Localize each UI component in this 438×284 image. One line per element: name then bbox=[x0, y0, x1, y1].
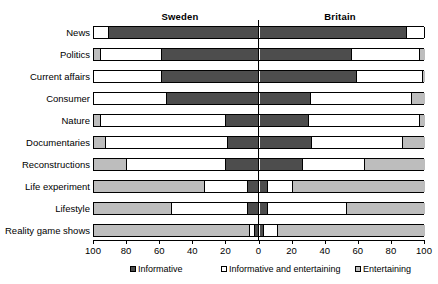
segment-britain-informative bbox=[260, 115, 310, 126]
segment-sweden-entertaining bbox=[94, 49, 101, 60]
panel-heading-britain: Britain bbox=[300, 11, 380, 22]
axis-tick bbox=[424, 240, 425, 244]
segment-britain-entertaining bbox=[347, 203, 425, 214]
segment-britain-entertaining bbox=[365, 159, 425, 170]
axis-tick-label: 100 bbox=[409, 245, 438, 256]
category-label: Documentaries bbox=[2, 136, 90, 149]
legend-label-informative-and-entertaining: Informative and entertaining bbox=[229, 264, 341, 274]
segment-britain-mixed bbox=[303, 159, 366, 170]
axis-tick-label: 60 bbox=[144, 245, 174, 256]
segment-sweden-entertaining bbox=[94, 203, 172, 214]
category-label: Lifestyle bbox=[2, 202, 90, 215]
segment-britain-mixed bbox=[357, 71, 423, 82]
segment-sweden-informative bbox=[226, 159, 259, 170]
legend-item-informative-and-entertaining: Informative and entertaining bbox=[221, 264, 341, 274]
segment-sweden-mixed bbox=[106, 137, 228, 148]
axis-tick bbox=[225, 240, 226, 244]
category-label: Current affairs bbox=[2, 70, 90, 83]
axis-tick bbox=[192, 240, 193, 244]
axis-tick-label: 40 bbox=[177, 245, 207, 256]
segment-britain-informative bbox=[260, 181, 268, 192]
legend-swatch-entertaining-icon bbox=[355, 266, 361, 272]
segment-britain-mixed bbox=[309, 115, 420, 126]
axis-tick-label: 0 bbox=[244, 245, 274, 256]
segment-britain-entertaining bbox=[420, 115, 425, 126]
axis-tick bbox=[93, 240, 94, 244]
segment-britain-entertaining bbox=[423, 71, 425, 82]
diverging-stacked-bar-chart: Sweden Britain NewsPoliticsCurrent affai… bbox=[0, 0, 438, 284]
segment-britain-informative bbox=[260, 203, 268, 214]
segment-britain-informative bbox=[260, 71, 358, 82]
axis-tick-label: 60 bbox=[343, 245, 373, 256]
segment-sweden-entertaining bbox=[94, 225, 250, 236]
legend-swatch-informative-icon bbox=[130, 266, 136, 272]
segment-sweden-mixed bbox=[94, 27, 109, 38]
axis-tick bbox=[292, 240, 293, 244]
axis-tick-label: 100 bbox=[78, 245, 108, 256]
category-label: Life experiment bbox=[2, 180, 90, 193]
segment-sweden-entertaining bbox=[94, 181, 205, 192]
segment-sweden-entertaining bbox=[94, 115, 101, 126]
legend-swatch-mixed-icon bbox=[221, 266, 227, 272]
category-label: News bbox=[2, 26, 90, 39]
segment-sweden-mixed bbox=[94, 93, 167, 104]
segment-sweden-mixed bbox=[101, 115, 227, 126]
category-axis-labels: NewsPoliticsCurrent affairsConsumerNatur… bbox=[0, 26, 90, 238]
axis-tick bbox=[358, 240, 359, 244]
axis-tick bbox=[325, 240, 326, 244]
legend-label-informative: Informative bbox=[138, 264, 183, 274]
segment-sweden-mixed bbox=[172, 203, 248, 214]
segment-britain-mixed bbox=[264, 225, 277, 236]
category-label: Consumer bbox=[2, 92, 90, 105]
segment-britain-informative bbox=[260, 93, 311, 104]
segment-sweden-informative bbox=[228, 137, 259, 148]
segment-britain-entertaining bbox=[293, 181, 425, 192]
legend-label-entertaining: Entertaining bbox=[363, 264, 411, 274]
axis-tick-label: 20 bbox=[210, 245, 240, 256]
segment-britain-mixed bbox=[311, 93, 412, 104]
axis-tick bbox=[259, 240, 260, 244]
segment-britain-informative bbox=[260, 159, 303, 170]
segment-sweden-entertaining bbox=[94, 137, 106, 148]
legend-item-informative: Informative bbox=[130, 264, 183, 274]
panel-heading-sweden: Sweden bbox=[140, 11, 220, 22]
axis-tick bbox=[126, 240, 127, 244]
segment-sweden-mixed bbox=[250, 225, 255, 236]
segment-sweden-mixed bbox=[94, 71, 162, 82]
axis-tick-label: 80 bbox=[111, 245, 141, 256]
segment-britain-entertaining bbox=[403, 137, 425, 148]
legend-item-entertaining: Entertaining bbox=[355, 264, 411, 274]
segment-britain-mixed bbox=[407, 27, 425, 38]
segment-sweden-informative bbox=[162, 49, 260, 60]
axis-tick-label: 20 bbox=[277, 245, 307, 256]
category-label: Reality game shows bbox=[2, 224, 90, 237]
axis-tick-label: 80 bbox=[376, 245, 406, 256]
segment-sweden-informative bbox=[167, 93, 260, 104]
axis-tick bbox=[391, 240, 392, 244]
segment-britain-entertaining bbox=[412, 93, 425, 104]
category-label: Reconstructions bbox=[2, 158, 90, 171]
segment-britain-mixed bbox=[268, 203, 347, 214]
category-label: Politics bbox=[2, 48, 90, 61]
segment-sweden-mixed bbox=[127, 159, 226, 170]
segment-britain-mixed bbox=[268, 181, 293, 192]
segment-britain-mixed bbox=[312, 137, 403, 148]
chart-legend: Informative Informative and entertaining… bbox=[93, 264, 424, 278]
axis-tick bbox=[159, 240, 160, 244]
category-label: Nature bbox=[2, 114, 90, 127]
axis-tick-label: 40 bbox=[310, 245, 340, 256]
segment-sweden-informative bbox=[226, 115, 259, 126]
segment-britain-informative bbox=[260, 49, 353, 60]
segment-sweden-informative bbox=[109, 27, 260, 38]
segment-sweden-mixed bbox=[205, 181, 248, 192]
segment-sweden-informative bbox=[162, 71, 260, 82]
segment-britain-entertaining bbox=[420, 49, 425, 60]
zero-axis-line bbox=[258, 20, 259, 240]
segment-britain-entertaining bbox=[278, 225, 425, 236]
segment-sweden-entertaining bbox=[94, 159, 127, 170]
segment-britain-informative bbox=[260, 27, 407, 38]
segment-sweden-mixed bbox=[101, 49, 162, 60]
segment-britain-informative bbox=[260, 137, 313, 148]
segment-britain-mixed bbox=[352, 49, 420, 60]
